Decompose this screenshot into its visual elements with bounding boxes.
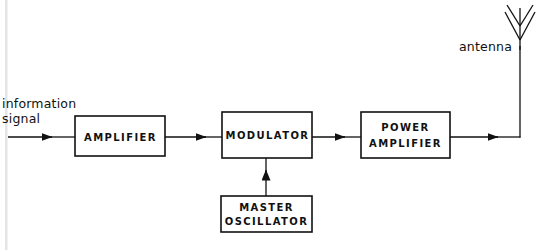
block-master-oscillator-label-line1: MASTER [239, 202, 294, 213]
wire-power-amplifier-to-antenna [450, 46, 521, 138]
block-power-amplifier-label-line2: AMPLIFIER [369, 138, 442, 149]
block-power-amplifier[interactable]: POWER AMPLIFIER [361, 112, 450, 158]
block-modulator-label: MODULATOR [226, 130, 310, 141]
block-diagram: AMPLIFIER MODULATOR POWER AMPLIFIER MAST… [0, 0, 541, 250]
block-master-oscillator[interactable]: MASTER OSCILLATOR [221, 196, 312, 232]
block-power-amplifier-outline [361, 112, 450, 158]
antenna-label: antenna [459, 39, 512, 54]
block-modulator[interactable]: MODULATOR [222, 112, 312, 158]
block-amplifier-label: AMPLIFIER [84, 132, 157, 143]
input-signal-label-line1: information [2, 96, 76, 111]
block-master-oscillator-label-line2: OSCILLATOR [225, 216, 309, 227]
block-power-amplifier-label-line1: POWER [381, 122, 429, 133]
input-signal-label-line2: signal [2, 111, 40, 126]
diagram-canvas: AMPLIFIER MODULATOR POWER AMPLIFIER MAST… [0, 0, 541, 250]
block-amplifier[interactable]: AMPLIFIER [75, 116, 165, 156]
